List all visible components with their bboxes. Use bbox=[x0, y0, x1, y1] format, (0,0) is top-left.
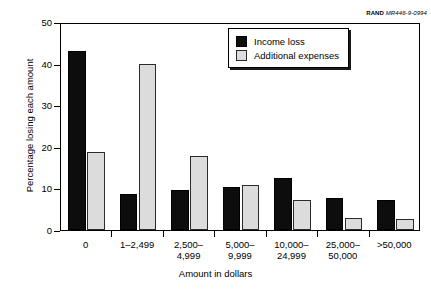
x-tick-1 bbox=[111, 231, 112, 237]
y-tick-50 bbox=[54, 23, 60, 24]
bar-0-2 bbox=[171, 190, 189, 230]
legend-swatch-0 bbox=[236, 36, 247, 47]
y-tick-30 bbox=[54, 106, 60, 107]
y-tick-label-40: 40 bbox=[12, 60, 52, 70]
y-tick-label-0: 0 bbox=[12, 226, 52, 236]
y-tick-label-10: 10 bbox=[12, 184, 52, 194]
chart-legend: Income lossAdditional expenses bbox=[228, 28, 349, 68]
y-tick-label-20: 20 bbox=[12, 143, 52, 153]
legend-label-1: Additional expenses bbox=[254, 50, 339, 61]
legend-swatch-1 bbox=[236, 50, 247, 61]
bar-1-5 bbox=[345, 218, 363, 230]
y-tick-10 bbox=[54, 189, 60, 190]
x-tick-2 bbox=[163, 231, 164, 237]
y-tick-0 bbox=[54, 231, 60, 232]
x-tick-6 bbox=[369, 231, 370, 237]
legend-label-0: Income loss bbox=[254, 36, 305, 47]
legend-item-0: Income loss bbox=[236, 34, 339, 48]
bar-0-1 bbox=[120, 194, 138, 230]
x-tick-label-6: >50,000 bbox=[363, 240, 426, 251]
bar-chart: Percentage losing each amount Amount in … bbox=[0, 0, 431, 289]
bar-1-1 bbox=[139, 64, 157, 230]
y-axis-title: Percentage losing each amount bbox=[24, 21, 35, 231]
bar-0-5 bbox=[326, 198, 344, 230]
legend-item-1: Additional expenses bbox=[236, 48, 339, 62]
y-tick-20 bbox=[54, 148, 60, 149]
x-tick-4 bbox=[266, 231, 267, 237]
bar-1-3 bbox=[242, 185, 260, 230]
bar-1-2 bbox=[190, 156, 208, 230]
y-tick-label-30: 30 bbox=[12, 101, 52, 111]
bar-1-6 bbox=[396, 219, 414, 230]
bar-0-3 bbox=[223, 187, 241, 230]
y-tick-label-50: 50 bbox=[12, 18, 52, 28]
bar-0-0 bbox=[68, 51, 86, 230]
bar-1-4 bbox=[293, 200, 311, 230]
bar-0-4 bbox=[274, 178, 292, 230]
x-axis-title: Amount in dollars bbox=[0, 268, 431, 279]
y-tick-40 bbox=[54, 65, 60, 66]
bar-0-6 bbox=[377, 200, 395, 230]
x-tick-3 bbox=[214, 231, 215, 237]
x-tick-5 bbox=[317, 231, 318, 237]
bar-1-0 bbox=[87, 152, 105, 230]
